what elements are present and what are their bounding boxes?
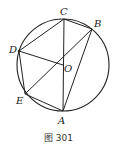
segment-de (19, 51, 25, 94)
label-o: O (64, 63, 72, 74)
label-a: A (57, 115, 65, 126)
geometry-figure: C B D O E A 图 301 (0, 0, 113, 151)
segment-cb (64, 19, 92, 29)
label-b: B (93, 18, 101, 29)
label-d: D (8, 44, 17, 55)
label-e: E (15, 95, 24, 106)
point-d-dot (18, 50, 20, 52)
figure-caption: 图 301 (44, 133, 73, 143)
label-c: C (60, 6, 68, 17)
segment-eb (25, 29, 92, 94)
segment-ea (25, 94, 63, 111)
